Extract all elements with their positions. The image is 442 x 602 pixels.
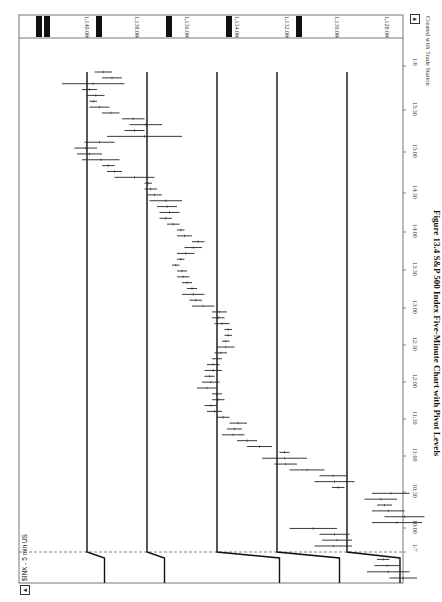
time-tick-label: 15:00 — [412, 144, 418, 158]
level-marker-6 — [296, 16, 302, 37]
level-marker-5 — [226, 16, 232, 37]
pivot-line-5 — [347, 72, 400, 583]
pivot-line-4 — [277, 72, 340, 583]
pivot-lines — [87, 72, 400, 583]
credit-label: Created with Trade Station — [425, 16, 432, 86]
symbol-label: $INX - 5 min US — [21, 534, 28, 581]
time-tick-label: 13:00 — [412, 300, 418, 314]
time-tick-label: 14:00 — [412, 224, 418, 238]
chart-page: 1,140.001,138.001,136.001,134.001,132.00… — [0, 0, 442, 602]
price-tick-label: 1,130.00 — [334, 16, 340, 37]
time-tick-label: 10:30 — [412, 484, 418, 498]
pivot-line-2 — [147, 72, 165, 583]
time-tick-label: 12:30 — [412, 337, 418, 351]
pivot-line-1 — [87, 72, 105, 583]
price-tick-label: 1,138.00 — [134, 16, 140, 37]
plot-border — [19, 15, 403, 583]
time-tick-label: 1/8 — [412, 58, 418, 66]
price-tick-label: 1,140.00 — [84, 16, 90, 37]
scroll-right-button[interactable]: ▸ — [410, 14, 420, 24]
price-chart — [0, 0, 442, 602]
price-tick-label: 1,128.00 — [384, 16, 390, 37]
price-tick-label: 1,132.00 — [284, 16, 290, 37]
time-tick-label: 10:00 — [412, 520, 418, 534]
time-tick-label: 15:30 — [412, 102, 418, 116]
time-tick-label: 13:30 — [412, 262, 418, 276]
time-tick-label: 1/7 — [412, 544, 418, 552]
price-axis-markers — [36, 16, 302, 37]
time-tick-label: 12:00 — [412, 374, 418, 388]
time-tick-label: 11:30 — [412, 411, 418, 424]
price-tick-label: 1,136.00 — [184, 16, 190, 37]
time-tick-label: 14:30 — [412, 185, 418, 199]
figure-caption: Figure 13.4 S&P 500 Index Five-Minute Ch… — [432, 210, 442, 456]
axis-ticks — [87, 35, 406, 552]
level-marker-2 — [44, 16, 50, 37]
pivot-line-3 — [217, 72, 280, 583]
chart-frame — [19, 15, 403, 583]
level-marker-3 — [96, 16, 102, 37]
price-tick-label: 1,134.00 — [234, 16, 240, 37]
scroll-left-button[interactable]: ◂ — [20, 585, 30, 595]
level-marker-1 — [36, 16, 42, 37]
time-tick-label: 11:00 — [412, 448, 418, 461]
price-bars — [62, 71, 425, 579]
level-marker-4 — [166, 16, 172, 37]
